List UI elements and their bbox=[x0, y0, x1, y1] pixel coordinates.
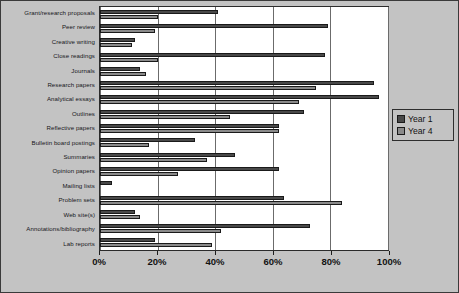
category-label: Creative writing bbox=[3, 35, 98, 49]
bar-group bbox=[100, 64, 388, 78]
category-label: Summaries bbox=[3, 150, 98, 164]
gridline bbox=[388, 7, 389, 250]
category-label: Grant/research proposals bbox=[3, 6, 98, 20]
category-label: Peer review bbox=[3, 20, 98, 34]
x-tick-mark bbox=[273, 251, 274, 255]
category-label: Problem sets bbox=[3, 193, 98, 207]
bar-group bbox=[100, 207, 388, 221]
bar-group bbox=[100, 236, 388, 250]
bar-group bbox=[100, 164, 388, 178]
bar-year-1 bbox=[100, 95, 379, 99]
bar-year-1 bbox=[100, 38, 135, 42]
bar-year-4 bbox=[100, 72, 146, 76]
legend-item-year-1[interactable]: Year 1 bbox=[396, 113, 450, 125]
bar-year-1 bbox=[100, 124, 279, 128]
bar-group bbox=[100, 136, 388, 150]
x-tick-label: 40% bbox=[205, 256, 224, 267]
bar-group bbox=[100, 107, 388, 121]
category-label: Outlines bbox=[3, 107, 98, 121]
bar-group bbox=[100, 150, 388, 164]
x-tick-label: 20% bbox=[147, 256, 166, 267]
x-tick-mark bbox=[99, 251, 100, 255]
bar-year-1 bbox=[100, 10, 218, 14]
category-label: Reflective papers bbox=[3, 121, 98, 135]
bar-year-4 bbox=[100, 243, 212, 247]
bar-year-1 bbox=[100, 53, 325, 57]
bar-year-4 bbox=[100, 158, 207, 162]
x-axis: 0%20%40%60%80%100% bbox=[99, 251, 389, 281]
legend-item-year-4[interactable]: Year 4 bbox=[396, 125, 450, 137]
bar-year-1 bbox=[100, 153, 235, 157]
category-label: Research papers bbox=[3, 78, 98, 92]
bar-year-4 bbox=[100, 201, 342, 205]
category-label: Mailing lists bbox=[3, 179, 98, 193]
bar-year-4 bbox=[100, 215, 140, 219]
bar-year-1 bbox=[100, 196, 284, 200]
x-tick-mark bbox=[331, 251, 332, 255]
x-tick-mark bbox=[215, 251, 216, 255]
category-label: Annotations/bibliography bbox=[3, 222, 98, 236]
bar-year-4 bbox=[100, 43, 132, 47]
bar-group bbox=[100, 78, 388, 92]
bar-year-1 bbox=[100, 110, 304, 114]
bar-year-1 bbox=[100, 138, 195, 142]
bar-group bbox=[100, 93, 388, 107]
bars-layer bbox=[100, 7, 388, 250]
x-tick-label: 60% bbox=[263, 256, 282, 267]
bar-year-4 bbox=[100, 15, 158, 19]
bar-year-1 bbox=[100, 81, 374, 85]
bar-year-4 bbox=[100, 172, 178, 176]
x-tick-label: 100% bbox=[377, 256, 401, 267]
bar-year-4 bbox=[100, 129, 279, 133]
bar-group bbox=[100, 193, 388, 207]
bar-year-1 bbox=[100, 167, 279, 171]
category-label: Lab reports bbox=[3, 237, 98, 251]
x-tick-mark bbox=[389, 251, 390, 255]
chart-legend: Year 1Year 4 bbox=[392, 109, 454, 141]
bar-year-4 bbox=[100, 229, 221, 233]
legend-label: Year 4 bbox=[408, 126, 433, 136]
bar-group bbox=[100, 50, 388, 64]
category-label: Web site(s) bbox=[3, 208, 98, 222]
plot-area bbox=[99, 6, 389, 251]
bar-year-1 bbox=[100, 181, 112, 185]
bar-group bbox=[100, 7, 388, 21]
category-label: Opinion papers bbox=[3, 164, 98, 178]
x-tick-mark bbox=[157, 251, 158, 255]
bar-year-4 bbox=[100, 115, 230, 119]
bar-year-4 bbox=[100, 100, 299, 104]
bar-year-4 bbox=[100, 29, 155, 33]
legend-label: Year 1 bbox=[408, 114, 433, 124]
bar-group bbox=[100, 36, 388, 50]
bar-year-4 bbox=[100, 143, 149, 147]
bar-year-1 bbox=[100, 224, 310, 228]
category-label: Close readings bbox=[3, 49, 98, 63]
category-label: Bulletin board postings bbox=[3, 136, 98, 150]
x-tick-label: 0% bbox=[92, 256, 106, 267]
bar-year-4 bbox=[100, 86, 316, 90]
bar-group bbox=[100, 21, 388, 35]
legend-swatch-icon bbox=[397, 115, 405, 123]
bar-group bbox=[100, 121, 388, 135]
bar-chart: Grant/research proposalsPeer reviewCreat… bbox=[0, 0, 459, 293]
x-tick-label: 80% bbox=[321, 256, 340, 267]
bar-year-4 bbox=[100, 58, 158, 62]
bar-year-1 bbox=[100, 238, 155, 242]
category-axis: Grant/research proposalsPeer reviewCreat… bbox=[3, 6, 98, 251]
category-label: Analytical essays bbox=[3, 92, 98, 106]
category-label: Journals bbox=[3, 64, 98, 78]
bar-year-1 bbox=[100, 210, 135, 214]
legend-swatch-icon bbox=[397, 127, 405, 135]
bar-group bbox=[100, 179, 388, 193]
bar-group bbox=[100, 221, 388, 235]
bar-year-1 bbox=[100, 24, 328, 28]
bar-year-1 bbox=[100, 67, 140, 71]
